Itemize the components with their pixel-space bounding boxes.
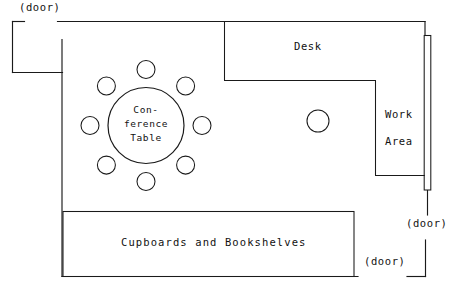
conference-chair-sw	[97, 156, 115, 174]
label-conference-table-line1: Con-	[133, 104, 158, 115]
label-conference-table: Con-ferenceTable	[122, 103, 170, 144]
conference-chair-e	[193, 117, 211, 135]
label-desk: Desk	[294, 41, 322, 52]
label-door-top-left: (door)	[19, 2, 61, 13]
label-work-area: WorkArea	[385, 101, 425, 155]
label-conference-table-line3: Table	[130, 132, 162, 143]
floor-plan-diagram: (door) Desk Con-ferenceTable WorkArea Cu…	[0, 0, 453, 289]
label-work-area-line1: Work	[385, 108, 413, 120]
label-door-right: (door)	[406, 218, 448, 229]
work-area-chair	[307, 110, 329, 132]
conference-chair-nw	[97, 77, 115, 95]
conference-chair-s	[137, 173, 155, 191]
conference-chair-w	[81, 117, 99, 135]
conference-chair-n	[137, 61, 155, 79]
label-door-bottom: (door)	[364, 256, 406, 267]
label-cupboards-and-bookshelves: Cupboards and Bookshelves	[121, 237, 307, 248]
right-wall-partition	[424, 36, 431, 191]
label-conference-table-line2: ference	[124, 118, 168, 129]
conference-chair-se	[177, 156, 195, 174]
conference-chair-ne	[177, 77, 195, 95]
label-work-area-line2: Area	[385, 135, 413, 147]
